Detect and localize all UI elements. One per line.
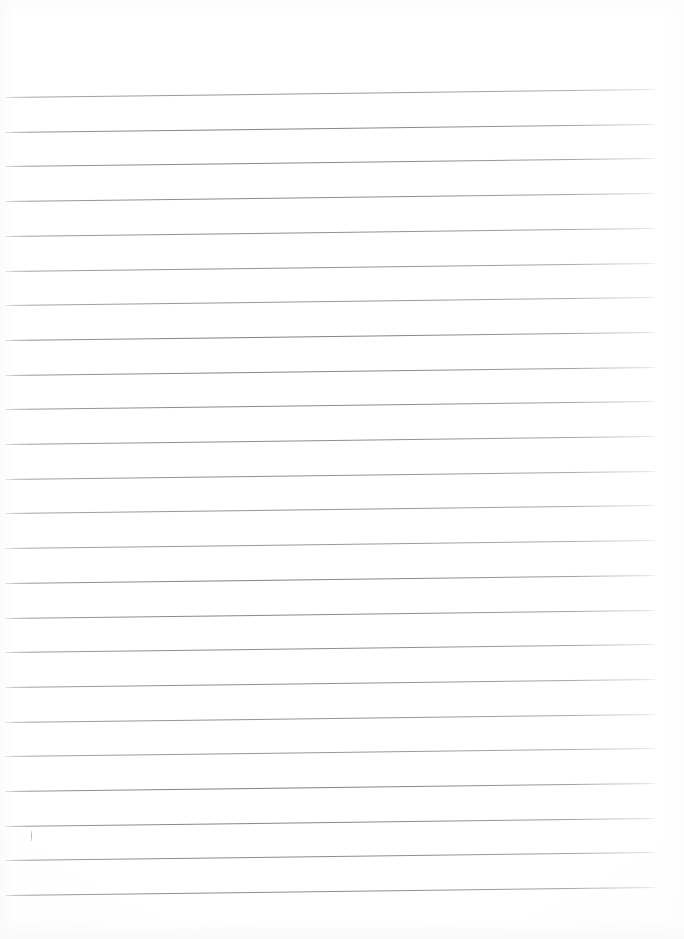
ruled-lines-layer xyxy=(0,0,684,939)
rule-line xyxy=(5,436,656,445)
rule-line xyxy=(5,748,656,757)
rule-line xyxy=(5,644,656,653)
rule-line xyxy=(5,818,656,827)
pencil-tick-mark xyxy=(31,830,32,841)
rule-line xyxy=(5,263,656,272)
rule-line xyxy=(5,297,656,306)
rule-line xyxy=(5,367,656,376)
rule-line xyxy=(5,89,656,98)
rule-line xyxy=(5,714,656,723)
rule-line xyxy=(5,471,656,480)
rule-line xyxy=(5,401,656,410)
rule-line xyxy=(5,679,656,688)
rule-line xyxy=(5,124,656,133)
rule-line xyxy=(5,158,656,167)
rule-line xyxy=(5,575,656,584)
rule-line xyxy=(5,228,656,237)
rule-line xyxy=(5,783,656,792)
rule-line xyxy=(5,852,656,861)
rule-line xyxy=(5,193,656,202)
rule-line xyxy=(5,887,656,896)
scanned-page xyxy=(0,0,684,939)
rule-line xyxy=(5,505,656,514)
rule-line xyxy=(5,540,656,549)
rule-line xyxy=(5,610,656,619)
rule-line xyxy=(5,332,656,341)
